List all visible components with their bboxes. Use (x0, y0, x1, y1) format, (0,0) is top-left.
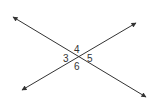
diagram-canvas: 3 4 5 6 (0, 0, 158, 111)
intersecting-lines-diagram: 3 4 5 6 (0, 0, 158, 111)
angle-label-4: 4 (74, 44, 80, 55)
angle-label-6: 6 (74, 61, 80, 72)
angle-label-5: 5 (87, 53, 93, 64)
angle-label-3: 3 (63, 53, 69, 64)
